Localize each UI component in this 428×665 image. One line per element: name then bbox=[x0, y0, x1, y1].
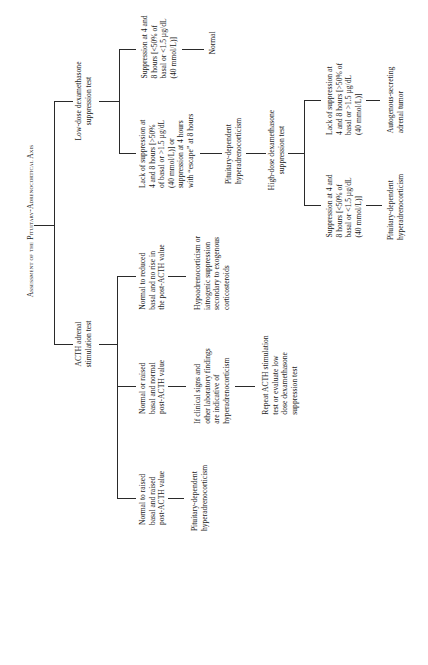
node-acth-reduced: Normal to reduced basal and no rise in t… bbox=[138, 244, 167, 309]
node-repeat-test: Repeat ACTH stimulation test or evaluate… bbox=[261, 335, 299, 414]
connector-high-dose-spine bbox=[304, 100, 305, 206]
connector-acth-spine bbox=[117, 276, 118, 499]
connector-hypo bbox=[168, 276, 186, 277]
connector-low-dose bbox=[54, 101, 73, 102]
node-low-dose-suppression: Suppression at 4 and 8 hours [<50% of ba… bbox=[140, 15, 178, 78]
connector-ld-lack bbox=[119, 153, 136, 154]
connector-low-dose-out bbox=[99, 101, 120, 102]
connector-pdh-3 bbox=[168, 498, 184, 499]
node-pdh-1: Pituitary-dependent hyperadrenocorticism bbox=[224, 118, 243, 184]
node-acth-test: ACTH adrenal stimulation test bbox=[74, 321, 93, 368]
connector-main-spine bbox=[54, 101, 55, 345]
connector-hd-lack bbox=[304, 100, 321, 101]
node-acth-normal: Normal or raised basal and normal post-A… bbox=[138, 360, 167, 414]
connector-ld-suppression bbox=[119, 49, 136, 50]
node-pdh-3: Pituitary-dependent hyperadrenocorticism bbox=[190, 465, 209, 531]
node-high-dose-lack-of-suppression: Lack of suppression at 4 and 8 hours [>5… bbox=[325, 63, 363, 135]
connector-adrenal-tumor bbox=[366, 100, 380, 101]
connector-acth-normal bbox=[117, 386, 136, 387]
node-low-dose-lack-of-suppression: Lack of suppression at 4 and 8 hours [>5… bbox=[138, 114, 196, 188]
connector-pdh-2 bbox=[366, 205, 382, 206]
connector-high-dose-out bbox=[288, 153, 305, 154]
connector-low-dose-spine bbox=[119, 49, 120, 154]
connector-root bbox=[34, 225, 55, 226]
connector-acth-reduced bbox=[117, 276, 136, 277]
connector-clinical bbox=[168, 386, 186, 387]
diagram-title: Assessment of the Pituitary-Adrenocortic… bbox=[26, 145, 36, 297]
node-acth-raised: Normal to raised basal and raised post-A… bbox=[138, 471, 167, 525]
node-hypoadrenocorticism: Hypoadrenocorticism or iatrogenic suppre… bbox=[193, 236, 231, 310]
node-high-dose-test: High-dose dexamethasone suppression test bbox=[267, 110, 286, 190]
connector-acth bbox=[54, 344, 73, 345]
node-normal: Normal bbox=[208, 31, 218, 54]
connector-acth-raised bbox=[117, 498, 136, 499]
connector-pdh-1 bbox=[200, 153, 222, 154]
connector-high-dose bbox=[246, 153, 266, 154]
node-pdh-2: Pituitary-dependent hyperadrenocorticism bbox=[386, 174, 405, 240]
connector-acth-out bbox=[99, 344, 118, 345]
node-adrenal-tumor: Autogenous-secreting adrenal tumor bbox=[386, 67, 405, 134]
node-high-dose-suppression: Suppression at 4 and 8 hours [<50% of ba… bbox=[325, 174, 363, 237]
node-clinical-signs: If clinical signs and other laboratory f… bbox=[193, 348, 231, 424]
node-low-dose-test: Low-dose dexamethasone suppression test bbox=[74, 61, 93, 140]
connector-hd-suppression bbox=[304, 205, 321, 206]
connector-repeat bbox=[235, 386, 255, 387]
connector-normal bbox=[182, 49, 204, 50]
